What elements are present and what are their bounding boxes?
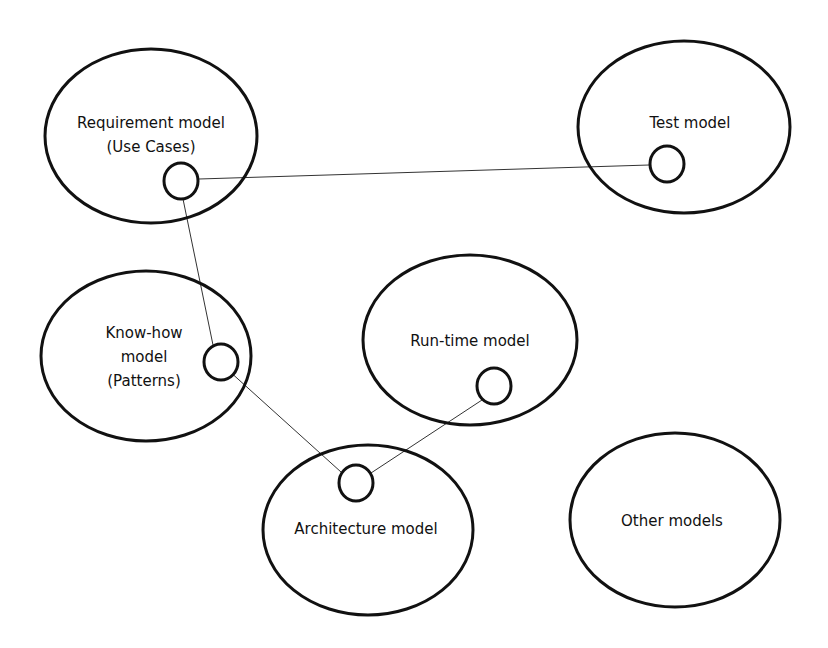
knowhow-model[interactable]: Know-how model (Patterns) [41, 271, 251, 441]
link-runtime-architecture [371, 400, 482, 473]
requirement-model-label-1: Requirement model [77, 114, 225, 132]
runtime-model-label: Run-time model [410, 332, 530, 350]
test-model[interactable]: Test model [578, 41, 790, 213]
link-requirement-test [199, 165, 649, 179]
knowhow-model-label-2: model [121, 348, 168, 366]
knowhow-model-label-3: (Patterns) [107, 372, 180, 390]
requirement-model[interactable]: Requirement model (Use Cases) [45, 49, 257, 223]
link-requirement-knowhow [183, 199, 213, 345]
test-port[interactable] [650, 146, 684, 182]
other-models-label: Other models [621, 512, 723, 530]
runtime-port[interactable] [477, 368, 511, 404]
knowhow-port[interactable] [204, 344, 238, 380]
runtime-model[interactable]: Run-time model [363, 255, 577, 425]
architecture-model[interactable]: Architecture model [263, 445, 473, 615]
test-model-label: Test model [648, 114, 730, 132]
other-models[interactable]: Other models [570, 433, 780, 607]
knowhow-model-label-1: Know-how [105, 324, 182, 342]
requirement-model-label-2: (Use Cases) [106, 138, 195, 156]
architecture-port[interactable] [339, 465, 373, 501]
model-diagram: Requirement model (Use Cases) Test model… [0, 0, 828, 648]
requirement-port[interactable] [164, 163, 198, 199]
architecture-model-label: Architecture model [294, 520, 437, 538]
